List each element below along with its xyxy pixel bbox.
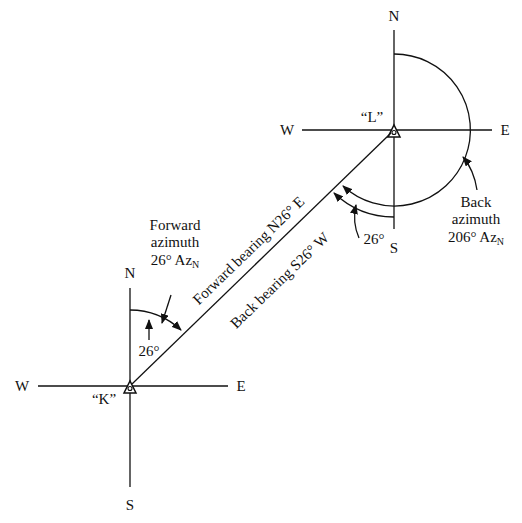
l-station-marker-icon [388,125,400,137]
l-east-label: E [500,122,509,138]
k-south-label: S [126,497,134,513]
back-azimuth-title-line1: Back [461,194,492,210]
k-station-marker-icon [124,381,136,393]
station-k: N S W E “K” [15,265,246,513]
l-south-label: S [390,240,398,256]
bearing-diagram: N S W E “K” N S W E “L” Forward bearing … [0,0,522,523]
back-azimuth-annotation: 26° Back azimuth 206° AzN [334,54,504,247]
k-east-label: E [236,378,245,394]
l-north-label: N [389,8,400,24]
k-west-label: W [15,378,30,394]
l-station-label: “L” [361,109,383,125]
forward-azimuth-annotation: 26° Forward azimuth 26° AzN [130,217,201,359]
k-station-label: “K” [92,391,116,407]
forward-azimuth-title-line1: Forward [150,217,201,233]
k-angle-label: 26° [139,343,160,359]
back-azimuth-leader-arrow [463,157,477,190]
l-west-label: W [280,122,295,138]
l-angle-label: 26° [364,231,385,247]
forward-azimuth-title-line2: azimuth [151,234,200,250]
back-azimuth-value: 206° AzN [448,229,504,247]
back-azimuth-title-line2: azimuth [452,211,501,227]
forward-azimuth-arc [130,310,181,330]
forward-azimuth-value: 26° AzN [151,252,200,270]
k-north-label: N [125,265,136,281]
forward-bearing-label: Forward bearing N26° E [190,193,308,307]
